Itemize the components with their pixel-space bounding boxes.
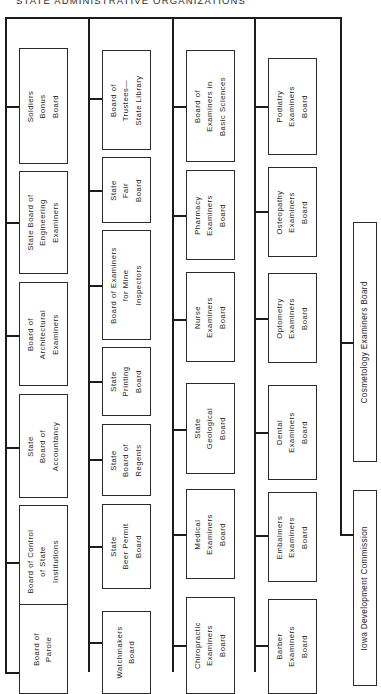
connector-c1-n3	[5, 335, 19, 337]
connector-c4-n1	[254, 106, 268, 108]
connector-c2-n7	[88, 642, 102, 644]
connector-c2-n3	[88, 285, 102, 287]
org-node-state-geological-board[interactable]: State Geological Board	[186, 383, 235, 474]
org-node-state-fair-board[interactable]: State Fair Board	[102, 157, 151, 223]
org-node-barber-examiners-board[interactable]: Barber Examiners Board	[268, 599, 317, 694]
connector-c3-n3	[172, 319, 186, 321]
org-node-podiatry-examiners-board[interactable]: Podiatry Examiners Board	[268, 58, 317, 155]
connector-c1-n4	[5, 447, 19, 449]
connector-c4-n2	[254, 211, 268, 213]
org-node-cosmetology-examiners-board[interactable]: Cosmetology Examiners Board	[353, 222, 377, 462]
column-3-spine	[172, 17, 174, 672]
org-node-pharmacy-examiners-board[interactable]: Pharmacy Examiners Board	[186, 170, 235, 260]
connector-c3-n6	[172, 645, 186, 647]
connector-c2-n1	[88, 98, 102, 100]
org-node-state-board-accountancy[interactable]: State Board of Accountancy	[19, 394, 68, 498]
connector-c1-n6	[5, 672, 19, 674]
connector-c3-n1	[172, 106, 186, 108]
org-node-osteopathy-examiners-board[interactable]: Osteopathy Examiners Board	[268, 167, 317, 257]
org-node-board-examiners-basic-sciences[interactable]: Board of Examiners in Basic Sciences	[186, 50, 235, 162]
organization-chart: Soldiers Bonus Board State Board of Engi…	[0, 0, 381, 694]
org-node-dental-examiners-board[interactable]: Dental Examiners Board	[268, 385, 317, 480]
column-4-spine	[254, 17, 256, 672]
connector-c2-n2	[88, 190, 102, 192]
org-node-state-board-engineering-examiners[interactable]: State Board of Engineering Examiners	[19, 171, 68, 274]
connector-c4-n4	[254, 432, 268, 434]
org-node-medical-examiners-board[interactable]: Medical Examiners Board	[186, 489, 235, 579]
connector-c4-n5	[254, 535, 268, 537]
org-node-chiropractic-examiners-board[interactable]: Chiropractic Examiners Board	[186, 597, 235, 694]
connector-c1-n5	[5, 562, 19, 564]
connector-c3-n4	[172, 429, 186, 431]
org-node-watchmakers-board[interactable]: Watchmakers Board	[102, 611, 151, 694]
connector-c2-n4	[88, 381, 102, 383]
column-2-spine	[88, 17, 90, 672]
connector-c4-n6	[254, 645, 268, 647]
org-node-board-control-state-institutions[interactable]: Board of Control of State Institutions	[19, 505, 68, 617]
org-node-state-board-regents[interactable]: State Board of Regents	[102, 424, 151, 496]
connector-c4-n3	[254, 318, 268, 320]
org-node-soldiers-bonus-board[interactable]: Soldiers Bonus Board	[19, 48, 68, 164]
connector-c3-n5	[172, 534, 186, 536]
org-node-state-beer-permit-board[interactable]: State Beer Permit Board	[102, 504, 151, 589]
connector-c5-n1	[340, 342, 353, 344]
connector-c1-n2	[5, 222, 19, 224]
connector-c1-n1	[5, 106, 19, 108]
org-node-board-architectural-examiners[interactable]: Board of Architectural Examiners	[19, 282, 68, 386]
org-node-iowa-development-commission[interactable]: Iowa Development Commission	[353, 490, 377, 686]
org-node-nurse-examiners-board[interactable]: Nurse Examiners Board	[186, 272, 235, 362]
column-1-spine	[5, 17, 7, 672]
org-node-board-parole[interactable]: Board of Parole	[19, 604, 68, 694]
org-node-state-printing-board[interactable]: State Printing Board	[102, 347, 151, 416]
connector-c2-n5	[88, 459, 102, 461]
connector-c2-n6	[88, 546, 102, 548]
org-node-optometry-examiners-board[interactable]: Optometry Examiners Board	[268, 273, 317, 363]
column-5-spine	[340, 17, 342, 534]
org-node-board-examiners-mine-inspectors[interactable]: Board of Examiners for Mine Inspectors	[102, 230, 151, 340]
org-node-embalmers-examiners-board[interactable]: Embalmers Examiners Board	[268, 492, 317, 582]
org-node-board-trustees-state-library[interactable]: Board of Trustees— State Library	[102, 50, 151, 150]
connector-c5-n2	[340, 534, 353, 536]
connector-c3-n2	[172, 215, 186, 217]
